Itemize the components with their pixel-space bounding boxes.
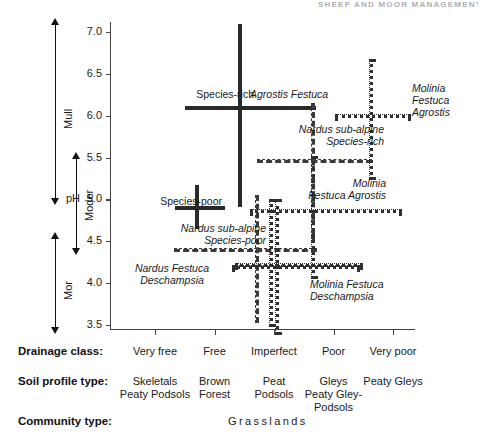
y-tick — [106, 283, 110, 284]
x-tick — [393, 330, 394, 335]
y-tick — [106, 241, 110, 242]
species-rich-agrostis-festuca-vertical — [238, 24, 242, 207]
arrow-head-down — [72, 248, 80, 255]
species-poor-nardus-sub-alpine-label-prefix: Species-poor — [160, 195, 222, 207]
y-axis-title: pH — [66, 192, 80, 204]
drainage-class-cell: Very poor — [351, 345, 435, 358]
y-tick — [106, 199, 110, 200]
y-tick-label: 4.0 — [70, 276, 102, 288]
nardus-festuca-deschampsia-vertical — [269, 199, 273, 326]
molinia-festuca-agrostis-upper-label: Molinia Festuca Agrostis — [412, 82, 482, 118]
y-tick-label: 3.5 — [70, 318, 102, 330]
running-head: SHEEP AND MOOR MANAGEMENT — [318, 0, 478, 9]
species-rich-agrostis-festuca-label-prefix: Species-rich — [192, 88, 254, 100]
y-tick-label: 5.5 — [70, 151, 102, 163]
molinia-festuca-deschampsia-vertical — [275, 199, 279, 335]
arrow-shaft — [55, 238, 56, 328]
x-tick — [334, 330, 335, 335]
y-tick-label: 7.0 — [70, 25, 102, 37]
nardus-festuca-deschampsia-label: Nardus Festuca Deschampsia — [126, 262, 218, 286]
y-tick — [106, 32, 110, 33]
figure-root: SHEEP AND MOOR MANAGEMENT MullModerMor 7… — [0, 0, 483, 437]
arrow-head-down — [51, 198, 59, 205]
nardus-sub-alpine-species-rich-label: Nardus sub-alpine Species-rich — [286, 123, 384, 147]
arrow-shaft — [55, 24, 56, 198]
nardus-sub-alpine-species-poor-vertical — [255, 195, 259, 322]
x-tick — [215, 330, 216, 335]
y-tick — [106, 74, 110, 75]
y-tick-label: 6.5 — [70, 67, 102, 79]
y-tick — [106, 158, 110, 159]
molinia-festuca-agrostis-upper-vertical — [369, 59, 373, 181]
molinia-festuca-agrostis-lower-horizontal — [250, 209, 402, 213]
y-tick — [106, 116, 110, 117]
community-type-value: Grasslands — [228, 415, 308, 427]
y-tick-label: 6.0 — [70, 109, 102, 121]
molinia-festuca-agrostis-lower-label: Molinia Festuca Agrostis — [300, 177, 386, 201]
species-rich-agrostis-festuca-horizontal — [185, 106, 316, 110]
community-type-row-label: Community type: — [18, 415, 112, 427]
y-tick-label: 4.5 — [70, 234, 102, 246]
molinia-festuca-agrostis-lower-vertical — [311, 156, 315, 279]
nardus-sub-alpine-species-poor-label: Nardus sub-alpine Species-poor — [166, 222, 266, 246]
soil-profile-type-cell: Peaty Gleys — [351, 375, 435, 388]
soil-profile-type-row-label: Soil profile type: — [18, 375, 108, 387]
y-tick — [106, 325, 110, 326]
molinia-festuca-deschampsia-horizontal — [232, 265, 360, 269]
y-axis-line — [110, 22, 111, 330]
arrow-head-up — [51, 232, 59, 239]
drainage-class-row-label: Drainage class: — [18, 345, 103, 357]
x-tick — [155, 330, 156, 335]
arrow-head-up — [51, 18, 59, 25]
arrow-head-down — [51, 327, 59, 334]
species-rich-agrostis-festuca-label: Agrostis Festuca — [250, 88, 328, 100]
nardus-sub-alpine-species-poor-horizontal — [174, 248, 317, 252]
molinia-festuca-deschampsia-label: Molinia Festuca Deschampsia — [310, 278, 402, 302]
